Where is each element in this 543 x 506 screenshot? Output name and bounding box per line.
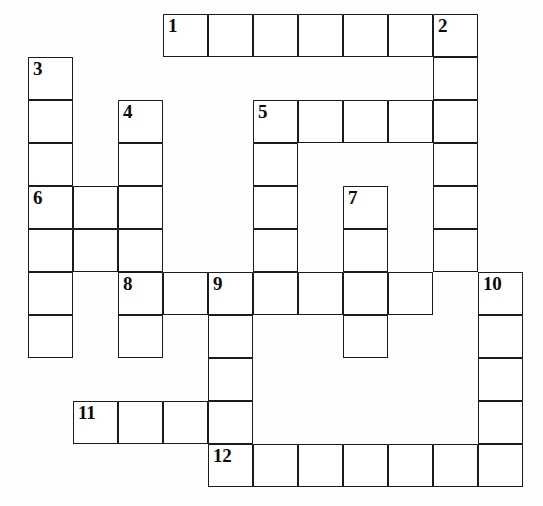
- crossword-cell[interactable]: [478, 315, 523, 358]
- crossword-cell[interactable]: [118, 186, 163, 229]
- crossword-cell[interactable]: 8: [118, 272, 163, 315]
- crossword-cell[interactable]: [208, 14, 253, 57]
- crossword-cell[interactable]: [253, 272, 298, 315]
- crossword-cell[interactable]: [298, 14, 343, 57]
- crossword-cell[interactable]: [118, 315, 163, 358]
- crossword-cell[interactable]: [388, 14, 433, 57]
- crossword-cell[interactable]: [298, 272, 343, 315]
- crossword-cell[interactable]: 11: [73, 401, 118, 444]
- clue-number: 9: [213, 273, 222, 295]
- crossword-cell[interactable]: 7: [343, 186, 388, 229]
- crossword-cell[interactable]: 4: [118, 100, 163, 143]
- crossword-cell[interactable]: [118, 143, 163, 186]
- crossword-cell[interactable]: [208, 401, 253, 444]
- crossword-cell[interactable]: [343, 229, 388, 272]
- crossword-cell[interactable]: [253, 444, 298, 487]
- clue-number: 2: [438, 15, 447, 37]
- crossword-cell[interactable]: [73, 186, 118, 229]
- crossword-cell[interactable]: [28, 143, 73, 186]
- crossword-cell[interactable]: [28, 272, 73, 315]
- crossword-cell[interactable]: [208, 358, 253, 401]
- clue-number: 4: [123, 101, 132, 123]
- crossword-cell[interactable]: [253, 186, 298, 229]
- clue-number: 12: [213, 445, 231, 467]
- crossword-cell[interactable]: [208, 315, 253, 358]
- crossword-cell[interactable]: [163, 272, 208, 315]
- crossword-cell[interactable]: [343, 272, 388, 315]
- crossword-cell[interactable]: [478, 358, 523, 401]
- crossword-cell[interactable]: [343, 444, 388, 487]
- clue-number: 1: [168, 15, 177, 37]
- crossword-cell[interactable]: [388, 100, 433, 143]
- crossword-cell[interactable]: [478, 401, 523, 444]
- crossword-cell[interactable]: [388, 444, 433, 487]
- crossword-cell[interactable]: [298, 444, 343, 487]
- crossword-cell[interactable]: 12: [208, 444, 253, 487]
- crossword-cell[interactable]: [118, 401, 163, 444]
- crossword-cell[interactable]: [253, 229, 298, 272]
- crossword-cell[interactable]: [253, 143, 298, 186]
- crossword-cell[interactable]: [433, 229, 478, 272]
- clue-number: 7: [348, 187, 357, 209]
- crossword-cell[interactable]: [73, 229, 118, 272]
- clue-number: 3: [33, 58, 42, 80]
- crossword-cell[interactable]: [433, 100, 478, 143]
- clue-number: 11: [78, 402, 95, 424]
- crossword-cell[interactable]: [433, 143, 478, 186]
- clue-number: 10: [483, 273, 501, 295]
- crossword-cell[interactable]: [253, 14, 298, 57]
- crossword-cell[interactable]: [28, 315, 73, 358]
- crossword-cell[interactable]: 9: [208, 272, 253, 315]
- crossword-cell[interactable]: 2: [433, 14, 478, 57]
- crossword-cell[interactable]: [343, 315, 388, 358]
- crossword-cell[interactable]: [163, 401, 208, 444]
- crossword-cell[interactable]: [343, 100, 388, 143]
- crossword-grid: 123456789101112: [0, 0, 543, 506]
- crossword-cell[interactable]: [298, 100, 343, 143]
- crossword-cell[interactable]: [28, 229, 73, 272]
- clue-number: 5: [258, 101, 267, 123]
- crossword-cell[interactable]: [118, 229, 163, 272]
- crossword-cell[interactable]: 3: [28, 57, 73, 100]
- clue-number: 8: [123, 273, 132, 295]
- crossword-cell[interactable]: [28, 100, 73, 143]
- crossword-cell[interactable]: 1: [163, 14, 208, 57]
- crossword-cell[interactable]: 10: [478, 272, 523, 315]
- crossword-cell[interactable]: [388, 272, 433, 315]
- crossword-cell[interactable]: [478, 444, 523, 487]
- crossword-cell[interactable]: [433, 444, 478, 487]
- crossword-cell[interactable]: 6: [28, 186, 73, 229]
- crossword-cell[interactable]: [343, 14, 388, 57]
- crossword-cell[interactable]: [433, 186, 478, 229]
- clue-number: 6: [33, 187, 42, 209]
- crossword-cell[interactable]: 5: [253, 100, 298, 143]
- crossword-cell[interactable]: [433, 57, 478, 100]
